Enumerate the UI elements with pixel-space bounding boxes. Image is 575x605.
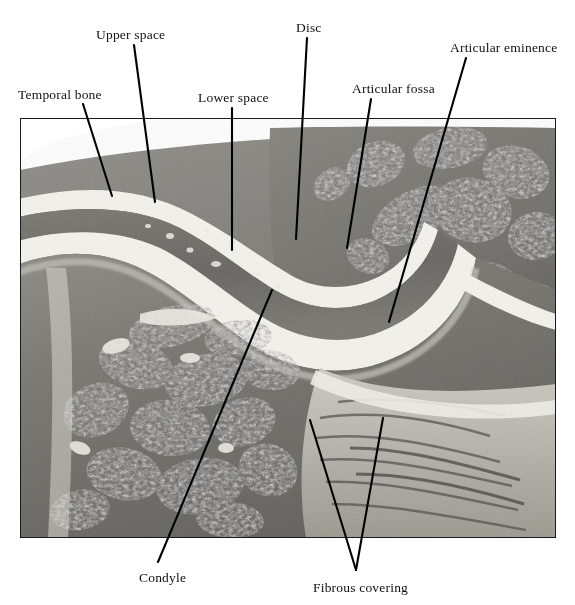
- label-temporal-bone: Temporal bone: [18, 88, 102, 102]
- label-fibrous-covering: Fibrous covering: [313, 581, 408, 595]
- label-lower-space: Lower space: [198, 91, 269, 105]
- micrograph-content: [20, 118, 556, 538]
- label-condyle: Condyle: [139, 571, 186, 585]
- micrograph-canvas: [20, 118, 556, 538]
- label-disc: Disc: [296, 21, 322, 35]
- label-articular-fossa: Articular fossa: [352, 82, 435, 96]
- label-articular-eminence: Articular eminence: [450, 41, 557, 55]
- histology-figure: Temporal bone Upper space Lower space Di…: [0, 0, 575, 605]
- label-upper-space: Upper space: [96, 28, 165, 42]
- tmj-histology-photomicrograph: [20, 118, 556, 538]
- film-grain: [20, 118, 556, 538]
